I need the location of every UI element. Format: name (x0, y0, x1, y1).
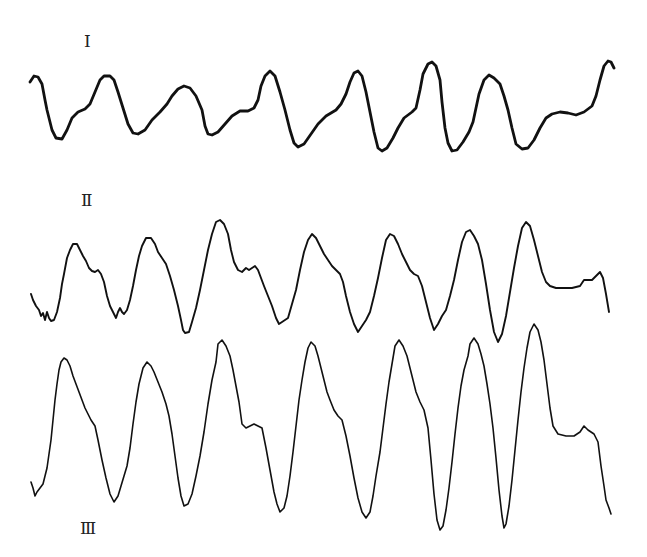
waveform-trace-1 (30, 61, 614, 151)
waveform-trace-2 (31, 220, 609, 342)
traces-canvas (0, 0, 647, 557)
waveform-figure: I II III (0, 0, 647, 557)
waveform-trace-3 (31, 324, 611, 530)
